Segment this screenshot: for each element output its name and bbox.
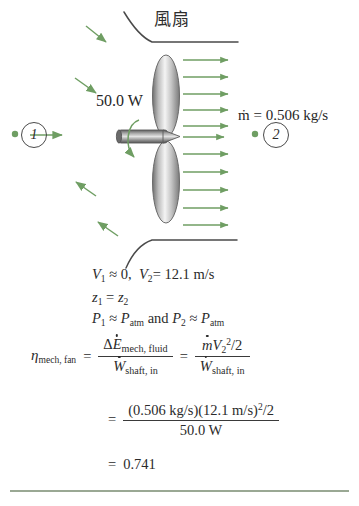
fraction-energy-over-work: ΔEmech, fluid Wshaft, in	[98, 336, 172, 375]
equation-result: = 0.741	[101, 456, 156, 473]
patm1-symbol: P	[121, 310, 130, 326]
fraction-denominator-2: Wshaft, in	[195, 356, 250, 376]
mass-flow-label: ṁ = 0.506 kg/s	[238, 108, 328, 123]
z1-subscript: 1	[98, 296, 103, 307]
mdot-symbol: m	[202, 337, 212, 354]
station-2-dot	[252, 131, 258, 137]
equation-numeric-substitution: = (0.506 kg/s)(12.1 m/s)2/2 50.0 W	[101, 401, 279, 439]
patm2-symbol: P	[201, 310, 210, 326]
patm1-subscript: atm	[130, 317, 144, 328]
duct-lower-wall	[126, 240, 237, 268]
bottom-divider	[10, 490, 349, 492]
emech-subscript: mech, fluid	[122, 344, 168, 355]
v1-value: 0,	[121, 266, 132, 282]
half-divisor: /2	[231, 337, 242, 353]
p1-subscript: 1	[101, 317, 106, 328]
eta-term: ηmech, fan	[31, 347, 76, 365]
equation-efficiency-definition: ηmech, fan = ΔEmech, fluid Wshaft, in = …	[31, 336, 250, 376]
fan-title-label: 風扇	[154, 11, 190, 28]
numeric-numerator: (0.506 kg/s)(12.1 m/s)2/2	[123, 401, 279, 420]
v1-subscript: 1	[101, 273, 106, 284]
eta-subscript: mech, fan	[38, 354, 76, 365]
equation-pressure: P1 ≈ Patm and P2 ≈ Patm	[92, 310, 224, 328]
numeric-equals: =	[101, 411, 123, 428]
fraction-numeric: (0.506 kg/s)(12.1 m/s)2/2 50.0 W	[123, 401, 279, 439]
efficiency-equals-2: =	[173, 348, 195, 365]
fraction-ke-over-work: mV22/2 Wshaft, in	[195, 336, 250, 376]
wshaft-subscript-1: shaft, in	[125, 365, 158, 376]
equation-velocity: V1 ≈ 0, V2= 12.1 m/s	[92, 266, 214, 284]
fraction-numerator-2: mV22/2	[195, 336, 250, 356]
v2-equals: =	[153, 266, 161, 282]
fraction-denominator-1: Wshaft, in	[98, 356, 172, 376]
numerator-tail: /2	[263, 402, 274, 418]
p1-approx: ≈	[109, 310, 117, 326]
pressure-conjunction: and	[148, 310, 169, 326]
p2-symbol: P	[172, 310, 181, 326]
wdot-symbol-2: W	[200, 358, 212, 375]
p2-approx: ≈	[190, 310, 198, 326]
p1-symbol: P	[92, 310, 101, 326]
outflow-arrow-icon	[183, 60, 228, 225]
fan-efficiency-figure: 風扇 50.0 W ṁ = 0.506 kg/s 1 2 V1 ≈ 0, V2=…	[0, 0, 359, 506]
v1-symbol: V	[92, 266, 101, 282]
state-point-1: 1	[21, 122, 47, 148]
shaft-power-label: 50.0 W	[96, 93, 143, 109]
result-equals: =	[101, 456, 123, 473]
wshaft-subscript-2: shaft, in	[212, 365, 245, 376]
patm2-subscript: atm	[210, 317, 224, 328]
z-equals: =	[106, 289, 114, 305]
z2-subscript: 2	[124, 296, 129, 307]
delta-symbol: Δ	[103, 336, 112, 352]
v1-approx: ≈	[109, 266, 117, 282]
edot-symbol: E	[113, 336, 122, 353]
p2-subscript: 2	[181, 317, 186, 328]
result-value: 0.741	[123, 456, 156, 473]
numerator-text: (0.506 kg/s)(12.1 m/s)	[128, 402, 258, 418]
efficiency-equals-1: =	[76, 348, 98, 365]
v2-symbol: V	[139, 266, 148, 282]
wdot-symbol-1: W	[113, 358, 125, 375]
numeric-denominator: 50.0 W	[123, 420, 279, 439]
equation-elevation: z1 = z2	[92, 289, 128, 307]
state-point-2: 2	[263, 122, 289, 148]
fraction-numerator-1: ΔEmech, fluid	[98, 336, 172, 355]
station-1-dot	[12, 131, 18, 137]
v2-value: 12.1 m/s	[164, 266, 214, 282]
